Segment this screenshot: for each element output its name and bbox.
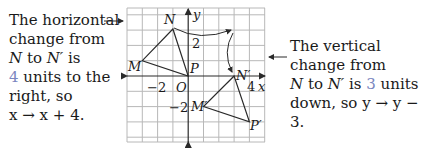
label-n: N — [163, 12, 176, 27]
coordinate-graph: N M P N′ M′ P′ O y x −2 4 2 −2 — [0, 0, 423, 148]
horizontal-translation-arrow — [174, 28, 231, 36]
label-m-prime: M′ — [190, 99, 207, 114]
label-m: M — [127, 59, 142, 74]
label-y-axis: y — [192, 7, 201, 22]
tick-x-neg2: −2 — [147, 80, 166, 95]
tick-x-4: 4 — [247, 79, 255, 94]
tick-y-2: 2 — [192, 36, 200, 51]
label-p-prime: P′ — [249, 118, 262, 133]
label-origin: O — [176, 80, 187, 95]
vertical-translation-arrow — [227, 33, 233, 72]
triangle-mnp — [142, 29, 188, 76]
label-p: P — [189, 61, 199, 76]
tick-y-neg2: −2 — [169, 100, 188, 115]
label-x-axis: x — [258, 79, 266, 94]
